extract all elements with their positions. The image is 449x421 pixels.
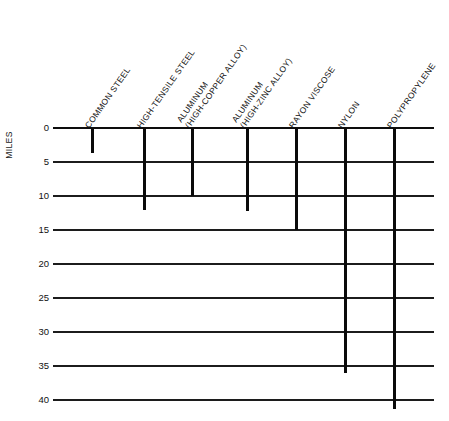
category-label-line1: NYLON xyxy=(336,99,362,130)
bar-polypropylene xyxy=(393,128,396,409)
category-label-common-steel: COMMON STEEL xyxy=(83,65,133,130)
y-tick-label-5: 5 xyxy=(25,157,49,167)
y-tick-label-30: 30 xyxy=(25,327,49,337)
gridline-10 xyxy=(53,195,434,197)
y-tick-label-40: 40 xyxy=(25,395,49,405)
y-tick-label-15: 15 xyxy=(25,225,49,235)
y-tick-label-25: 25 xyxy=(25,293,49,303)
category-label-line1: RAYON VISCOSE xyxy=(287,64,337,130)
category-label-line1: ALUMINUM xyxy=(175,36,241,124)
bar-high-tensile-steel xyxy=(143,128,146,210)
breaking-length-bar-chart: MILES 0510152025303540 COMMON STEELHIGH-… xyxy=(0,0,449,421)
category-label-rayon-viscose: RAYON VISCOSE xyxy=(287,64,337,130)
bar-aluminum-high-zinc xyxy=(246,128,249,211)
category-label-line1: COMMON STEEL xyxy=(83,65,133,130)
bar-rayon-viscose xyxy=(295,128,298,230)
gridline-15 xyxy=(53,229,434,231)
gridline-40 xyxy=(53,399,434,401)
bar-aluminum-high-copper xyxy=(191,128,194,196)
bar-nylon xyxy=(344,128,347,373)
bar-common-steel xyxy=(91,128,94,153)
gridline-5 xyxy=(53,161,434,163)
gridline-35 xyxy=(53,365,434,367)
y-tick-label-20: 20 xyxy=(25,259,49,269)
y-axis-title: MILES xyxy=(4,122,14,168)
category-label-polypropylene: POLYPROPYLENE xyxy=(385,61,438,130)
gridline-25 xyxy=(53,297,434,299)
y-tick-label-0: 0 xyxy=(25,123,49,133)
gridline-30 xyxy=(53,331,434,333)
category-label-line1: POLYPROPYLENE xyxy=(385,61,438,130)
category-label-nylon: NYLON xyxy=(336,99,362,130)
category-label-aluminum-high-zinc: ALUMINUM(HIGH-ZINC ALLOY) xyxy=(230,50,294,130)
y-tick-label-35: 35 xyxy=(25,361,49,371)
gridline-20 xyxy=(53,263,434,265)
y-tick-label-10: 10 xyxy=(25,191,49,201)
